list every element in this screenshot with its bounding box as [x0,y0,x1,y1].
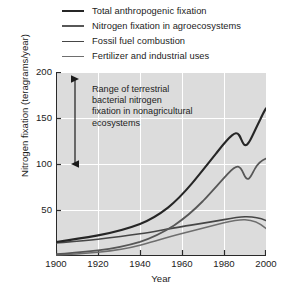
legend-swatch-icon [62,10,84,12]
x-tick-label: 1960 [162,258,202,269]
legend-item-nitrogen-fixation-in-agroecosystems: Nitrogen fixation in agroecosystems [62,19,284,33]
annotation-line-3: fixation in nonagricultural [92,106,214,117]
x-tick-label: 1940 [120,258,160,269]
y-tick-label: 150 [12,112,52,123]
legend-item-total-anthropogenic-fixation: Total anthropogenic fixation [62,4,284,18]
annotation-line-2: bacterial nitrogen [92,95,214,106]
legend-swatch-icon [62,56,84,57]
y-tick-marks [56,73,61,211]
legend-label: Nitrogen fixation in agroecosystems [92,21,241,31]
legend-label: Total anthropogenic fixation [92,6,207,16]
y-tick-label: 50 [12,204,52,215]
y-tick-label: 200 [12,66,52,77]
legend-swatch-icon [62,41,84,42]
x-axis-ticks: 1900 1920 1940 1960 1980 2000 [56,258,266,272]
legend-swatch-icon [62,25,84,27]
range-annotation-text: Range of terrestrial bacterial nitrogen … [92,84,214,129]
y-axis-ticks: 200 150 100 50 [8,72,52,256]
plot-area: Range of terrestrial bacterial nitrogen … [56,72,266,256]
legend-item-fertilizer-and-industrial-uses: Fertilizer and industrial uses [62,49,284,63]
x-tick-label: 1900 [36,258,76,269]
legend-label: Fertilizer and industrial uses [92,51,209,61]
x-tick-label: 1980 [204,258,244,269]
chart-legend: Total anthropogenic fixation Nitrogen fi… [62,4,284,64]
annotation-line-1: Range of terrestrial [92,84,214,95]
x-tick-label: 2000 [246,258,286,269]
x-axis-label: Year [56,273,266,284]
y-tick-label: 100 [12,158,52,169]
legend-item-fossil-fuel-combustion: Fossil fuel combustion [62,34,284,48]
annotation-line-4: ecosystems [92,118,214,129]
legend-label: Fossil fuel combustion [92,36,185,46]
figure-nitrogen-fixation: Total anthropogenic fixation Nitrogen fi… [0,0,286,294]
x-tick-label: 1920 [78,258,118,269]
